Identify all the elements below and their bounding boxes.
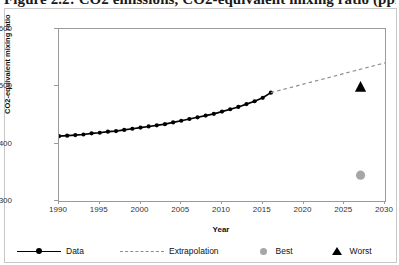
- y-axis-tick-label: 500: [0, 81, 12, 90]
- data-point-marker: [73, 133, 77, 137]
- legend-item-best: Best: [255, 246, 293, 256]
- data-point-marker: [244, 102, 248, 106]
- x-axis-tick-label: 2020: [294, 205, 312, 214]
- data-point-marker: [195, 115, 199, 119]
- data-point-marker: [163, 122, 167, 126]
- data-point-marker: [212, 112, 216, 116]
- series-line-data: [59, 93, 271, 137]
- data-point-marker: [253, 99, 257, 103]
- y-axis-tick-label: 300: [0, 196, 12, 205]
- legend-item-worst: Worst: [329, 246, 372, 256]
- data-point-marker: [130, 127, 134, 131]
- data-point-marker: [138, 126, 142, 130]
- data-point-marker: [171, 120, 175, 124]
- x-axis-tick-label: 2030: [375, 205, 393, 214]
- data-point-marker: [122, 128, 126, 132]
- data-point-marker: [106, 130, 110, 134]
- x-axis-tick-label: 2025: [334, 205, 352, 214]
- data-point-marker: [90, 131, 94, 135]
- data-point-marker: [179, 119, 183, 123]
- data-point-marker: [228, 107, 232, 111]
- series-line-extrapolation: [271, 63, 385, 93]
- data-point-marker: [204, 113, 208, 117]
- legend-item-extrapolation: Extrapolation: [120, 246, 219, 256]
- data-point-marker: [155, 123, 159, 127]
- legend-label-data: Data: [66, 246, 84, 256]
- x-axis-tick-label: 1995: [90, 205, 108, 214]
- data-point-marker: [261, 96, 265, 100]
- x-axis-tick-label: 2000: [131, 205, 149, 214]
- legend-label-worst: Worst: [350, 246, 372, 256]
- x-axis-title: Year: [58, 225, 384, 234]
- x-axis-tick-label: 2010: [212, 205, 230, 214]
- worst-case-marker: [355, 81, 366, 92]
- plot-area: [58, 28, 386, 202]
- data-point-marker: [81, 132, 85, 136]
- y-axis-tick-label: 600: [0, 24, 12, 33]
- data-point-marker: [236, 105, 240, 109]
- plot-canvas: [59, 29, 385, 201]
- data-point-marker: [187, 117, 191, 121]
- black-triangle-marker-icon: [329, 246, 345, 256]
- chart-screenshot: Figure 2.2: CO2 emissions, CO2-equivalen…: [0, 0, 399, 265]
- legend-label-extrapolation: Extrapolation: [169, 246, 219, 256]
- data-point-marker: [65, 134, 69, 138]
- legend-item-data: Data: [17, 246, 84, 256]
- chart-legend: Data Extrapolation Best Worst: [17, 242, 387, 260]
- dashed-line-swatch-icon: [120, 246, 164, 256]
- legend-label-best: Best: [276, 246, 293, 256]
- y-axis-tick-label: 400: [0, 138, 12, 147]
- best-case-marker: [356, 171, 365, 180]
- data-line-swatch-icon: [17, 246, 61, 256]
- data-point-marker: [98, 131, 102, 135]
- x-axis-tick-label: 2015: [253, 205, 271, 214]
- data-point-marker: [220, 109, 224, 113]
- x-axis-tick-label: 1990: [49, 205, 67, 214]
- data-point-marker: [114, 129, 118, 133]
- document-title: Figure 2.2: CO2 emissions, CO2-equivalen…: [4, 0, 396, 7]
- chart-container: CO2-equivalent mixing ratio 300400500600…: [4, 8, 397, 263]
- gray-circle-marker-icon: [255, 246, 271, 256]
- data-point-marker: [59, 134, 61, 138]
- x-axis-tick-label: 2005: [171, 205, 189, 214]
- data-point-marker: [147, 124, 151, 128]
